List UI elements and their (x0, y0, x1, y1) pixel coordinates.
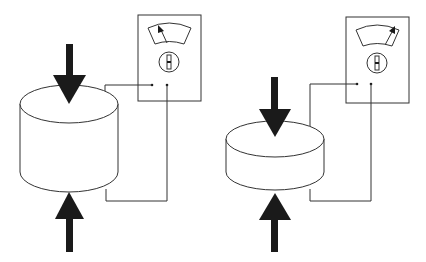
needle-tip-icon (158, 25, 164, 33)
right-meter (346, 17, 409, 103)
up-arrow-icon (55, 192, 84, 252)
meter-dial (148, 23, 191, 44)
up-arrow-icon (259, 193, 291, 252)
left-meter (138, 15, 201, 101)
meter-needle (161, 30, 167, 43)
right-panel (226, 17, 409, 252)
diagram-canvas (0, 0, 426, 262)
wire (310, 84, 357, 137)
left-panel (20, 15, 201, 252)
meter-needle (385, 32, 392, 45)
